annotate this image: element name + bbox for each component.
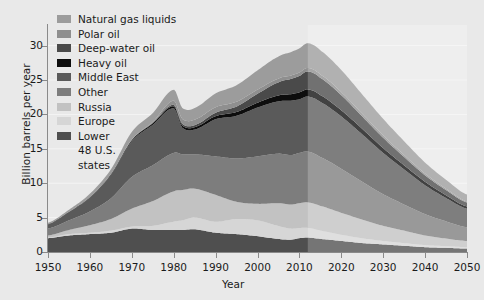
legend-swatch-icon bbox=[57, 88, 71, 96]
legend-swatch-icon bbox=[57, 73, 71, 81]
chart-legend: Natural gas liquidsPolar oilDeep-water o… bbox=[57, 12, 176, 173]
legend-item-other[interactable]: Other bbox=[57, 85, 176, 100]
x-tick-label-2030: 2030 bbox=[359, 261, 407, 273]
legend-label: Russia bbox=[78, 100, 112, 115]
legend-swatch-icon bbox=[57, 132, 71, 140]
x-tick-2040 bbox=[425, 253, 426, 258]
x-tick-2030 bbox=[383, 253, 384, 258]
legend-swatch-icon bbox=[57, 44, 71, 52]
legend-label: Heavy oil bbox=[78, 56, 127, 71]
y-tick-label-10: 10 bbox=[3, 176, 43, 188]
y-tick-label-30: 30 bbox=[3, 39, 43, 51]
x-tick-label-1990: 1990 bbox=[192, 261, 240, 273]
legend-label: Europe bbox=[78, 114, 115, 129]
legend-label-continuation: states bbox=[78, 158, 176, 173]
legend-swatch-icon bbox=[57, 103, 71, 111]
projection-overlay bbox=[308, 25, 467, 252]
legend-label: Middle East bbox=[78, 70, 139, 85]
chart-figure: Billion barrels per year Year 0510152025… bbox=[0, 0, 484, 300]
legend-swatch-icon bbox=[57, 30, 71, 38]
legend-swatch-icon bbox=[57, 117, 71, 125]
legend-item-europe[interactable]: Europe bbox=[57, 114, 176, 129]
y-tick-label-5: 5 bbox=[3, 211, 43, 223]
legend-label: Natural gas liquids bbox=[78, 12, 176, 27]
y-axis-title: Billion barrels per year bbox=[20, 24, 32, 224]
legend-item-heavy-oil[interactable]: Heavy oil bbox=[57, 56, 176, 71]
x-axis-title: Year bbox=[0, 278, 484, 290]
x-tick-1970 bbox=[132, 253, 133, 258]
x-tick-label-2000: 2000 bbox=[234, 261, 282, 273]
legend-item-deep-water-oil[interactable]: Deep-water oil bbox=[57, 41, 176, 56]
y-tick-label-0: 0 bbox=[3, 245, 43, 257]
x-tick-label-2020: 2020 bbox=[317, 261, 365, 273]
x-tick-1960 bbox=[90, 253, 91, 258]
legend-label: Other bbox=[78, 85, 108, 100]
legend-item-russia[interactable]: Russia bbox=[57, 100, 176, 115]
x-tick-label-1970: 1970 bbox=[108, 261, 156, 273]
legend-item-natural-gas-liquids[interactable]: Natural gas liquids bbox=[57, 12, 176, 27]
x-tick-label-2040: 2040 bbox=[401, 261, 449, 273]
x-tick-label-2050: 2050 bbox=[443, 261, 484, 273]
y-tick-label-20: 20 bbox=[3, 107, 43, 119]
legend-swatch-icon bbox=[57, 15, 71, 23]
x-tick-1950 bbox=[48, 253, 49, 258]
y-tick-label-25: 25 bbox=[3, 73, 43, 85]
legend-item-polar-oil[interactable]: Polar oil bbox=[57, 27, 176, 42]
legend-swatch-icon bbox=[57, 59, 71, 67]
x-tick-label-2010: 2010 bbox=[275, 261, 323, 273]
legend-label: Lower bbox=[78, 129, 109, 144]
legend-item-lower[interactable]: Lower bbox=[57, 129, 176, 144]
x-tick-2000 bbox=[258, 253, 259, 258]
legend-label-continuation: 48 U.S. bbox=[78, 143, 176, 158]
x-tick-1980 bbox=[174, 253, 175, 258]
x-tick-2010 bbox=[299, 253, 300, 258]
y-tick-label-15: 15 bbox=[3, 142, 43, 154]
x-tick-1990 bbox=[216, 253, 217, 258]
x-tick-2020 bbox=[341, 253, 342, 258]
legend-label: Deep-water oil bbox=[78, 41, 155, 56]
legend-item-middle-east[interactable]: Middle East bbox=[57, 70, 176, 85]
x-tick-label-1980: 1980 bbox=[150, 261, 198, 273]
x-tick-label-1960: 1960 bbox=[66, 261, 114, 273]
x-tick-label-1950: 1950 bbox=[24, 261, 72, 273]
legend-label: Polar oil bbox=[78, 27, 120, 42]
x-tick-2050 bbox=[467, 253, 468, 258]
